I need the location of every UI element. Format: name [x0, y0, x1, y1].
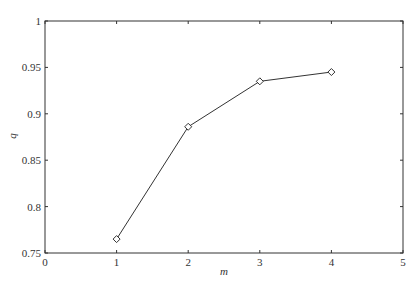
x-tick-label: 4 [329, 256, 335, 268]
y-axis-ticks: 0.750.80.850.90.951 [22, 15, 403, 259]
x-tick-label: 2 [185, 256, 191, 268]
y-tick-label: 0.8 [27, 201, 41, 213]
y-tick-label: 0.95 [22, 61, 42, 73]
x-tick-label: 0 [42, 256, 48, 268]
line-chart: 012345 0.750.80.850.90.951 m q [0, 0, 420, 285]
plot-frame [45, 21, 403, 253]
x-axis-ticks: 012345 [42, 21, 406, 268]
series-line [117, 72, 332, 239]
x-axis-label: m [220, 265, 228, 277]
y-tick-label: 0.85 [22, 154, 42, 166]
diamond-marker-icon [256, 78, 263, 85]
data-series [113, 69, 335, 243]
diamond-marker-icon [328, 69, 335, 76]
y-tick-label: 1 [36, 15, 42, 27]
y-tick-label: 0.75 [22, 247, 42, 259]
plot-axes [45, 21, 403, 253]
y-tick-label: 0.9 [27, 108, 41, 120]
x-tick-label: 3 [257, 256, 263, 268]
x-tick-label: 5 [400, 256, 406, 268]
x-tick-label: 1 [114, 256, 120, 268]
diamond-marker-icon [185, 123, 192, 130]
diamond-marker-icon [113, 236, 120, 243]
y-axis-label: q [6, 133, 18, 139]
